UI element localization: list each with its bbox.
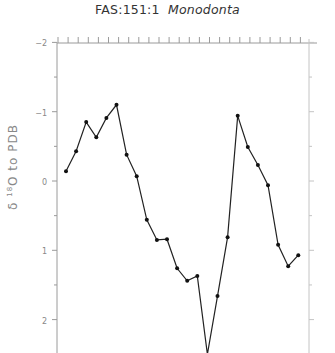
plot-area: −2−1012 [0, 0, 335, 353]
data-point [276, 243, 280, 247]
data-point [216, 294, 220, 298]
data-point [104, 116, 108, 120]
data-point [195, 274, 199, 278]
data-point [115, 103, 119, 107]
y-tick-label: −2 [35, 39, 47, 48]
data-point [84, 120, 88, 124]
y-tick-label: −1 [35, 109, 47, 118]
data-point [94, 135, 98, 139]
data-point [175, 266, 179, 270]
data-point [296, 253, 300, 257]
y-tick-label: 2 [42, 317, 47, 326]
data-point [64, 169, 68, 173]
data-point [236, 114, 240, 118]
data-point [155, 238, 159, 242]
data-point [74, 149, 78, 153]
data-point [226, 235, 230, 239]
data-point [246, 145, 250, 149]
y-tick-label: 1 [42, 247, 47, 256]
data-point [145, 218, 149, 222]
data-point [256, 163, 260, 167]
data-point [185, 279, 189, 283]
data-line [66, 105, 298, 353]
data-point [165, 237, 169, 241]
data-point [125, 153, 129, 157]
data-point [266, 183, 270, 187]
y-tick-label: 0 [42, 178, 47, 187]
data-point [286, 264, 290, 268]
data-point [135, 174, 139, 178]
